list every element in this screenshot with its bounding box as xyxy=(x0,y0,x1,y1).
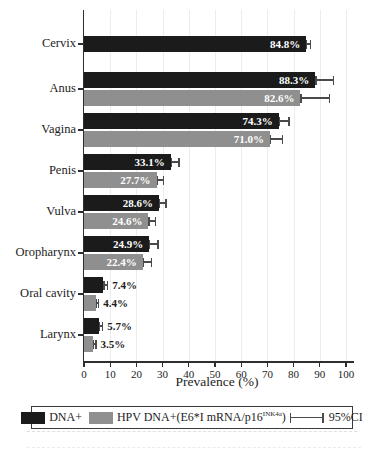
bar-value-label: 24.6% xyxy=(84,215,142,228)
error-bar-cap xyxy=(93,340,94,349)
legend-label-dna: DNA+ xyxy=(47,410,82,425)
legend-label-mrna-superscript: INK4a xyxy=(263,410,282,418)
bar-value-label: 5.7% xyxy=(107,320,132,333)
error-bar-cap xyxy=(178,158,179,167)
bar xyxy=(84,336,93,352)
error-bar-cap xyxy=(103,281,104,290)
error-bar-cap xyxy=(279,117,280,126)
error-bar-cap xyxy=(96,299,97,308)
error-bar-cap xyxy=(333,76,334,85)
bar-value-label: 88.3% xyxy=(84,74,309,87)
bar xyxy=(84,277,103,293)
x-tick xyxy=(293,363,294,367)
error-bar-cap xyxy=(157,176,158,185)
grid-line xyxy=(163,10,164,361)
category-label: Oropharynx xyxy=(0,244,76,261)
category-label: Anus xyxy=(0,80,76,97)
bar-value-label: 7.4% xyxy=(112,279,137,292)
x-tick xyxy=(162,363,163,367)
error-bar-cap xyxy=(288,117,289,126)
grid-line xyxy=(320,10,321,361)
bar-value-label: 3.5% xyxy=(101,338,126,351)
error-bar-cap xyxy=(107,281,108,290)
x-tick xyxy=(136,363,137,367)
category-label: Cervix xyxy=(0,35,76,52)
legend-label-ci: 95%CI xyxy=(327,410,363,425)
grid-line xyxy=(241,10,242,361)
bar-value-label: 22.4% xyxy=(84,256,137,269)
grid-line xyxy=(189,10,190,361)
legend-errorbar-glyph xyxy=(290,413,324,423)
x-tick xyxy=(345,363,346,367)
error-bar-cap xyxy=(102,322,103,331)
error-bar-cap xyxy=(159,199,160,208)
x-tick xyxy=(241,363,242,367)
bar-value-label: 33.1% xyxy=(84,156,165,169)
grid-line xyxy=(346,10,347,361)
x-tick xyxy=(267,363,268,367)
bar-value-label: 82.6% xyxy=(84,92,294,105)
error-bar-cap xyxy=(155,217,156,226)
bar-value-label: 74.3% xyxy=(84,115,273,128)
legend-swatch-mrna xyxy=(89,412,113,424)
error-bar-cap xyxy=(300,94,301,103)
error-bar-cap xyxy=(157,240,158,249)
legend-box: DNA+ HPV DNA+(E6*I mRNA/p16INK4a) 95%CI xyxy=(31,406,353,429)
error-bar-cap xyxy=(99,322,100,331)
grid-line xyxy=(267,10,268,361)
grid-line xyxy=(215,10,216,361)
legend-label-mrna-suffix: ) xyxy=(282,410,286,424)
bar-value-label: 27.7% xyxy=(84,174,151,187)
errorbar-line xyxy=(291,417,322,418)
error-bar-cap xyxy=(149,240,150,249)
error-bar-cap xyxy=(148,217,149,226)
error-bar-cap xyxy=(315,76,316,85)
legend-label-mrna: HPV DNA+(E6*I mRNA/p16INK4a) xyxy=(115,410,286,425)
x-tick xyxy=(83,363,84,367)
divider-line xyxy=(27,447,361,448)
error-bar-cap xyxy=(310,40,311,49)
bar xyxy=(84,318,99,334)
x-tick xyxy=(110,363,111,367)
x-axis-line xyxy=(83,361,354,363)
legend-swatch-dna xyxy=(21,412,45,424)
category-label: Vagina xyxy=(0,121,76,138)
chart-area: 0102030405060708090100Cervix84.8%Anus88.… xyxy=(0,0,375,400)
error-bar-cap xyxy=(165,199,166,208)
legend-label-mrna-prefix: HPV DNA+(E6*I mRNA/p16 xyxy=(117,410,263,424)
category-label: Vulva xyxy=(0,203,76,220)
figure-root: 0102030405060708090100Cervix84.8%Anus88.… xyxy=(0,0,375,456)
error-bar-cap xyxy=(95,340,96,349)
bar-value-label: 28.6% xyxy=(84,197,153,210)
error-bar-cap xyxy=(282,135,283,144)
error-bar-cap xyxy=(151,258,152,267)
bar-value-label: 24.9% xyxy=(84,238,143,251)
category-label: Larynx xyxy=(0,326,76,343)
bar-value-label: 84.8% xyxy=(84,38,300,51)
error-bar-cap xyxy=(143,258,144,267)
x-tick xyxy=(188,363,189,367)
bar-value-label: 4.4% xyxy=(103,297,128,310)
x-axis-title: Prevalence (%) xyxy=(84,374,350,390)
error-bar-cap xyxy=(171,158,172,167)
x-tick xyxy=(214,363,215,367)
category-label: Oral cavity xyxy=(0,285,76,302)
error-bar-cap xyxy=(270,135,271,144)
x-tick xyxy=(319,363,320,367)
bar-value-label: 71.0% xyxy=(84,133,264,146)
bar xyxy=(84,295,96,311)
errorbar-right-cap xyxy=(322,413,323,423)
divider-line xyxy=(27,431,357,432)
error-bar-cap xyxy=(306,40,307,49)
error-bar-cap xyxy=(163,176,164,185)
error-bar-line xyxy=(315,79,334,80)
error-bar-cap xyxy=(329,94,330,103)
error-bar-cap xyxy=(98,299,99,308)
error-bar-line xyxy=(300,97,330,98)
grid-line xyxy=(294,10,295,361)
category-label: Penis xyxy=(0,162,76,179)
